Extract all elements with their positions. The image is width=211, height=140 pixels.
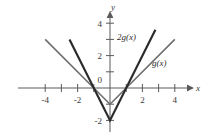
y-axis-label: y bbox=[110, 2, 115, 12]
graph-figure: -4 -2 2 4 4 2 -2 0 x y 2g(x) g(x) bbox=[0, 0, 211, 140]
x-tick-label-4: 4 bbox=[173, 95, 178, 105]
x-tick-label-neg2: -2 bbox=[74, 95, 82, 105]
x-axis-label: x bbox=[195, 83, 200, 93]
origin-label: 0 bbox=[98, 75, 103, 85]
y-tick-label-neg2: -2 bbox=[95, 116, 103, 126]
y-axis-arrow-icon bbox=[107, 11, 114, 18]
curve-label-2g-of-x: 2g(x) bbox=[117, 32, 136, 42]
curve-label-g-of-x: g(x) bbox=[152, 58, 167, 68]
y-tick-label-2: 2 bbox=[98, 51, 103, 61]
x-axis bbox=[18, 85, 194, 92]
x-tick-label-neg4: -4 bbox=[41, 95, 49, 105]
x-axis-arrow-icon bbox=[187, 85, 194, 92]
y-tick-label-4: 4 bbox=[98, 19, 103, 29]
coordinate-plane: -4 -2 2 4 4 2 -2 0 x y 2g(x) g(x) bbox=[0, 0, 211, 140]
curve-2g-of-x bbox=[70, 30, 156, 121]
x-tick-label-2: 2 bbox=[140, 95, 145, 105]
